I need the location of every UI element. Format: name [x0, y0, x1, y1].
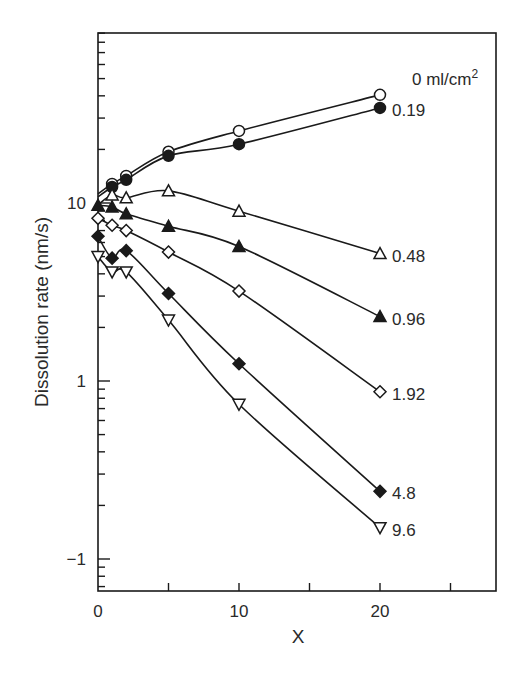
- circle-filled-marker-icon: [234, 139, 245, 150]
- series-curves: [98, 95, 380, 528]
- circle-open-marker-icon: [234, 125, 245, 136]
- diamond-open-marker-icon: [92, 212, 104, 224]
- x-axis-title: X: [292, 626, 305, 647]
- diamond-filled-marker-icon: [92, 230, 104, 242]
- circle-filled-marker-icon: [163, 150, 174, 161]
- series-label: 0.96: [392, 310, 425, 329]
- diamond-open-marker-icon: [163, 246, 175, 258]
- y-axis-title: Dissolution rate (nm/s): [31, 217, 52, 407]
- series-label: 0.48: [392, 247, 425, 266]
- diamond-open-marker-icon: [120, 225, 132, 237]
- triangle-up-filled-marker-icon: [120, 208, 132, 219]
- circle-filled-marker-icon: [121, 174, 132, 185]
- y-tick-label: 10: [67, 194, 86, 213]
- y-tick-label: −1: [67, 550, 86, 569]
- series-curve: [98, 205, 380, 316]
- series-label: 0 ml/cm2: [412, 67, 479, 89]
- diamond-open-marker-icon: [106, 219, 118, 231]
- y-tick-label: 1: [77, 372, 86, 391]
- diamond-open-marker-icon: [233, 285, 245, 297]
- circle-filled-marker-icon: [375, 102, 386, 113]
- series-label: 0.19: [392, 101, 425, 120]
- x-tick-label: 10: [230, 602, 249, 621]
- series-curve: [98, 108, 380, 197]
- series-label: 4.8: [392, 484, 416, 503]
- triangle-up-filled-marker-icon: [233, 240, 245, 251]
- triangle-up-filled-marker-icon: [374, 311, 386, 322]
- series-markers: [92, 89, 386, 533]
- circle-open-marker-icon: [375, 89, 386, 100]
- triangle-down-open-marker-icon: [374, 523, 386, 534]
- x-tick-label: 0: [93, 602, 102, 621]
- x-tick-label: 20: [371, 602, 390, 621]
- series-label: 9.6: [392, 521, 416, 540]
- diamond-open-marker-icon: [374, 386, 386, 398]
- triangle-down-open-marker-icon: [106, 267, 118, 278]
- y-axis-ticks: 101−1: [67, 33, 110, 586]
- dissolution-rate-chart: 101−1 01020 0 ml/cm20.190.480.961.924.89…: [0, 0, 519, 680]
- series-labels: 0 ml/cm20.190.480.961.924.89.6: [392, 67, 479, 540]
- x-axis-ticks: 01020: [93, 583, 450, 621]
- series-label: 1.92: [392, 385, 425, 404]
